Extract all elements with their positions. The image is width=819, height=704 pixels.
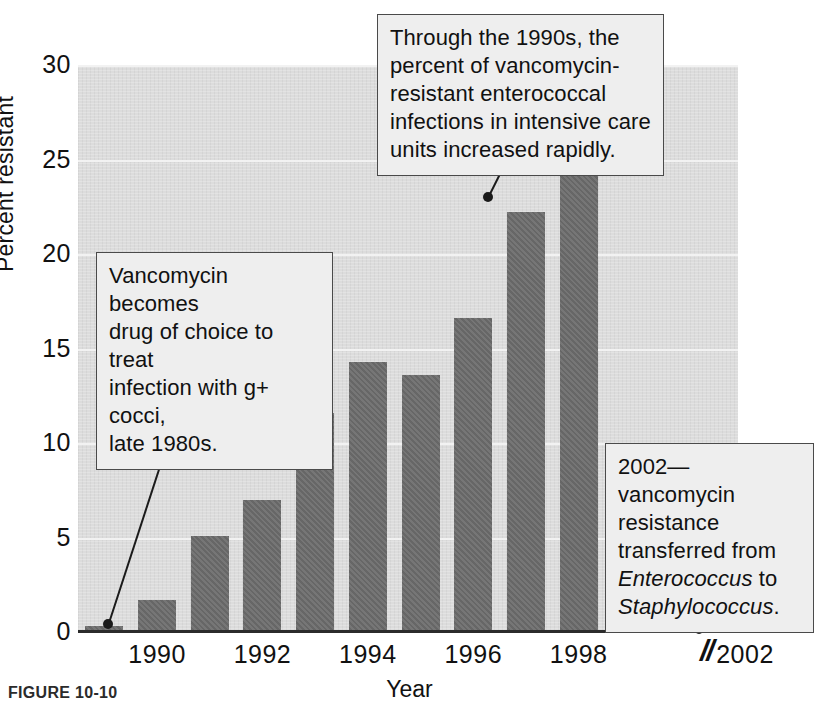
annotation-transfer-2002-line-3: Enterococcus to [618, 565, 801, 593]
bar-1995 [402, 375, 440, 632]
annotation-vancomycin-line-3: late 1980s. [109, 430, 320, 458]
bar-1996 [454, 318, 492, 632]
y-axis-title: Percent resistant [0, 96, 19, 272]
annotation-vancomycin-line-2: infection with g+ cocci, [109, 374, 320, 430]
annotation-icu: Through the 1990s, the percent of vancom… [377, 14, 664, 176]
x-tick-label-1990: 1990 [102, 640, 212, 669]
bar-1997 [507, 212, 545, 632]
x-tick-label-1994: 1994 [313, 640, 423, 669]
y-tick-label-30: 30 [21, 52, 71, 77]
y-tick-label-25: 25 [21, 147, 71, 172]
annotation-vancomycin: Vancomycin becomes drug of choice to tre… [96, 252, 333, 470]
bar-1991 [191, 536, 229, 632]
figure-root: 051015202530 Percent resistant 199019921… [0, 0, 819, 704]
bar-1998 [560, 175, 598, 632]
annotation-icu-line-0: Through the 1990s, the [390, 24, 651, 52]
annotation-transfer-2002-line-2: transferred from [618, 537, 801, 565]
bar-1990 [138, 600, 176, 632]
bar-1992 [243, 500, 281, 632]
annotation-vancomycin-line-0: Vancomycin becomes [109, 262, 320, 318]
y-tick-label-20: 20 [21, 241, 71, 266]
genus-enterococcus: Enterococcus [618, 566, 753, 591]
x-axis-title: Year [0, 676, 819, 703]
annotation-transfer-2002-line-4: Staphylococcus. [618, 593, 801, 621]
genus-staphylococcus: Staphylococcus [618, 594, 774, 619]
annotation-vancomycin-line-1: drug of choice to treat [109, 318, 320, 374]
y-tick-label-10: 10 [21, 430, 71, 455]
figure-caption: FIGURE 10-10 [8, 684, 117, 702]
x-tick-label-1992: 1992 [207, 640, 317, 669]
y-tick-label-0: 0 [21, 619, 71, 644]
annotation-icu-line-3: infections in intensive care [390, 108, 651, 136]
annotation-transfer-2002: 2002—vancomycin resistance transferred f… [605, 443, 814, 633]
y-tick-label-15: 15 [21, 336, 71, 361]
annotation-transfer-2002-line-1: resistance [618, 509, 801, 537]
axis-break-icon: // [700, 634, 713, 668]
annotation-icu-line-4: units increased rapidly. [390, 136, 651, 164]
x-tick-label-1996: 1996 [418, 640, 528, 669]
y-tick-label-5: 5 [21, 525, 71, 550]
x-tick-label-1998: 1998 [524, 640, 634, 669]
annotation-icu-line-2: resistant enterococcal [390, 80, 651, 108]
annotation-transfer-2002-line-0: 2002—vancomycin [618, 453, 801, 509]
annotation-icu-line-1: percent of vancomycin- [390, 52, 651, 80]
bar-1994 [349, 362, 387, 632]
